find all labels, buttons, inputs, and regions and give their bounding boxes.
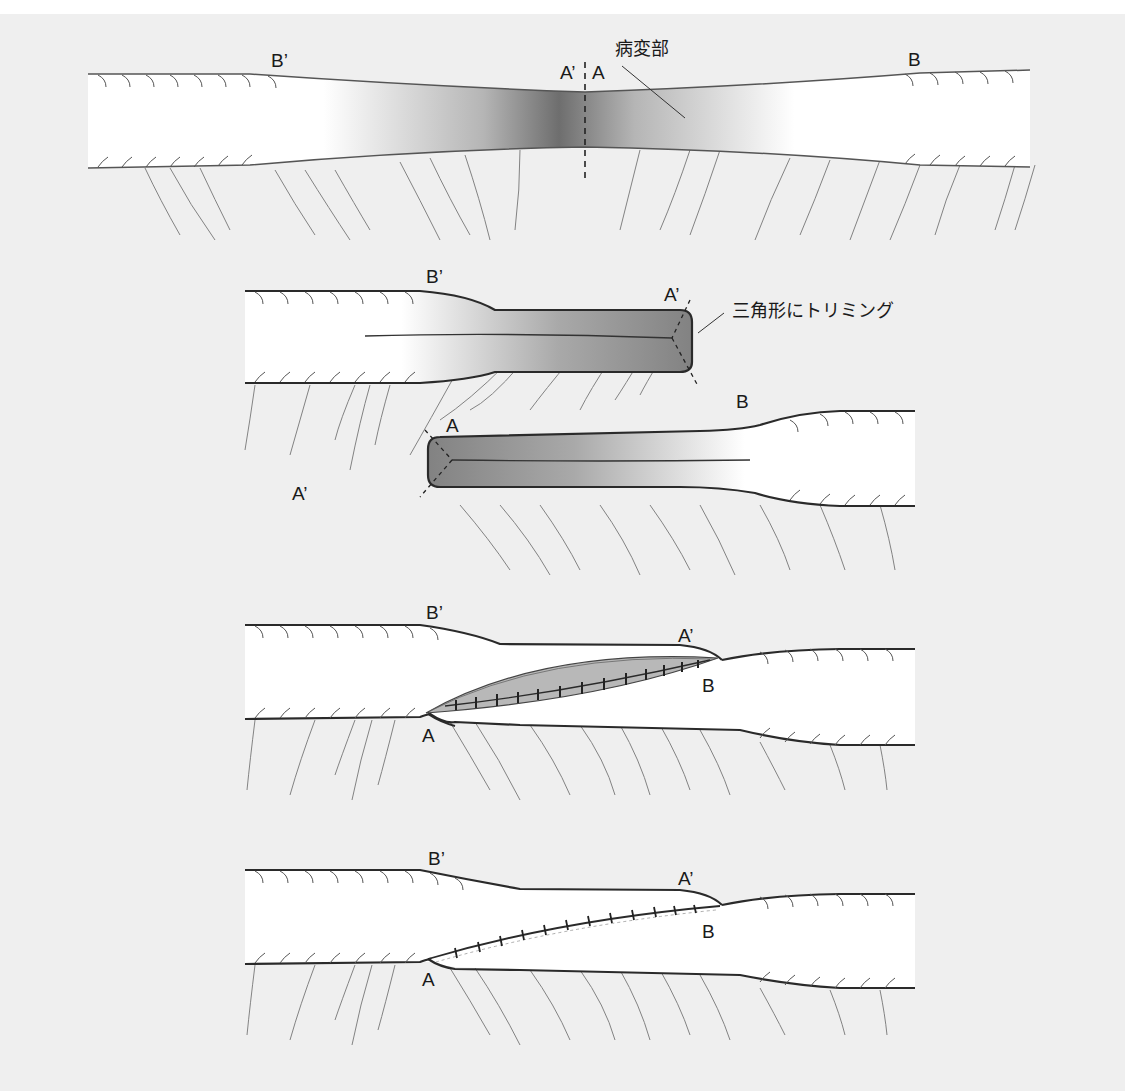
label-a-prime-1: A’ [560, 63, 575, 82]
trim-leader-line [698, 313, 724, 333]
vessel-with-lesion [88, 70, 1030, 168]
label-a-3: A [422, 726, 435, 745]
label-b-prime-3: B’ [426, 603, 443, 622]
panel-3-suturing [245, 625, 915, 800]
panel-1-lesion [88, 62, 1035, 240]
distal-stump [428, 411, 915, 506]
label-b-prime-2: B’ [426, 267, 443, 286]
label-b-3: B [702, 676, 715, 695]
label-a-prime-4: A’ [678, 869, 693, 888]
label-a-4: A [422, 970, 435, 989]
anastomosis-illustration [0, 0, 1142, 1091]
label-b-prime-1: B’ [271, 51, 288, 70]
trim-label: 三角形にトリミング [732, 302, 894, 320]
label-a-prime-2: A’ [664, 285, 679, 304]
label-b-2: B [736, 392, 749, 411]
label-a-1: A [592, 63, 605, 82]
label-b-prime-4: B’ [428, 849, 445, 868]
label-a-prime-stray: A’ [292, 484, 307, 503]
label-b-1: B [908, 50, 921, 69]
panel-2-trimming [245, 291, 915, 575]
label-a-2: A [446, 416, 459, 435]
label-b-4: B [702, 922, 715, 941]
lesion-label: 病変部 [615, 40, 669, 58]
label-a-prime-3: A’ [678, 626, 693, 645]
panel-4-completed [245, 870, 915, 1045]
